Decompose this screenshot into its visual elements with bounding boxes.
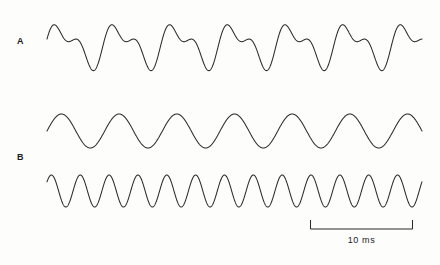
scalebar-line xyxy=(310,218,422,234)
scalebar: 10 ms xyxy=(310,218,422,258)
scalebar-label: 10 ms xyxy=(310,235,413,245)
waveform-trace-b-fundamental xyxy=(47,114,422,148)
waveform-trace-a xyxy=(47,25,422,71)
waveform-figure: A B 10 ms xyxy=(0,0,440,265)
waveform-trace-b-harmonic xyxy=(47,175,422,207)
